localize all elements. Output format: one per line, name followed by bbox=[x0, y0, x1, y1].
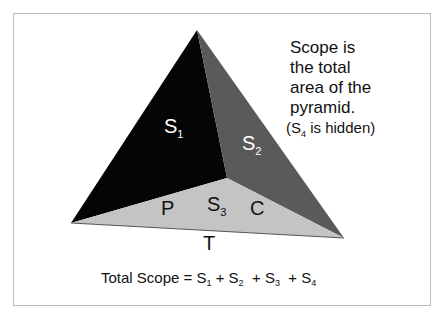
edge-label-c: C bbox=[250, 198, 264, 218]
note-line: area of the bbox=[290, 78, 375, 98]
face-s3-label: S3 bbox=[207, 194, 226, 222]
pyramid bbox=[0, 0, 443, 315]
total-scope-formula: Total Scope = S1 + S2 + S3 + S4 bbox=[101, 269, 316, 288]
note-line: pyramid. bbox=[290, 98, 375, 118]
hidden-face-note: (S4 is hidden) bbox=[286, 118, 375, 144]
edge-label-t: T bbox=[203, 233, 215, 253]
note-line: the total bbox=[290, 58, 375, 78]
edge-label-p: P bbox=[161, 198, 174, 218]
scope-note: Scope is the total area of the pyramid. … bbox=[290, 38, 375, 144]
face-s1-label: S1 bbox=[164, 116, 183, 144]
note-line: Scope is bbox=[290, 38, 375, 58]
face-s2-label: S2 bbox=[242, 133, 261, 161]
